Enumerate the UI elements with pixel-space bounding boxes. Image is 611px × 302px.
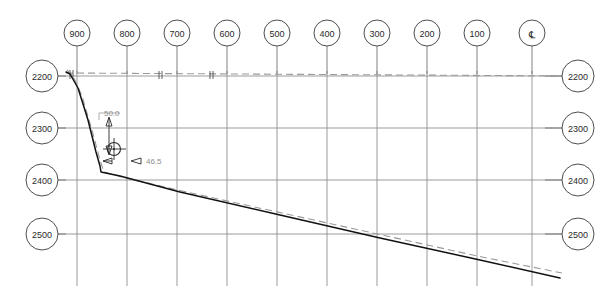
existing-grade-solid-profile	[66, 72, 560, 278]
elevation-bubble-label: 2500	[568, 230, 588, 240]
elevation-bubble-label: 2400	[568, 176, 588, 186]
elevation-bubble-left-2500[interactable]: 2500	[26, 218, 58, 250]
station-bubble-label: 800	[119, 29, 134, 39]
station-bubble-700[interactable]: 700	[164, 20, 190, 46]
grid-vertical-lines	[77, 71, 532, 286]
station-bubble-600[interactable]: 600	[214, 20, 240, 46]
station-bubble-200[interactable]: 200	[414, 20, 440, 46]
station-bubble-label: 100	[469, 29, 484, 39]
profile-svg: 50.0 46.5 900 800	[0, 0, 611, 302]
station-bubble-centerline[interactable]: ℄	[519, 20, 545, 46]
elevation-bubble-label: 2300	[568, 124, 588, 134]
elevation-bubble-label: 2200	[32, 72, 52, 82]
station-bubble-900[interactable]: 900	[64, 20, 90, 46]
elevation-bubble-label: 2400	[32, 176, 52, 186]
horizontal-dimension-label: 46.5	[146, 157, 162, 166]
target-center-dot-icon	[113, 148, 115, 150]
right-elevation-bubbles: 2200 2300 2400 2500	[562, 60, 594, 250]
dim-arrow-left-outer-46	[131, 158, 141, 164]
station-bubble-label: 300	[369, 29, 384, 39]
survey-point-marker	[103, 138, 126, 160]
station-bubble-label: 200	[419, 29, 434, 39]
station-bubbles: 900 800 700 600 500 400	[64, 20, 545, 46]
datum-hatch-marks	[70, 70, 213, 79]
elevation-bubble-right-2500[interactable]: 2500	[562, 218, 594, 250]
elevation-bubble-right-2400[interactable]: 2400	[562, 164, 594, 196]
elevation-bubble-right-2200[interactable]: 2200	[562, 60, 594, 92]
elevation-connector-stubs	[42, 76, 578, 234]
station-bubble-label: 900	[69, 29, 84, 39]
station-bubble-500[interactable]: 500	[264, 20, 290, 46]
profile-drawing-canvas: 50.0 46.5 900 800	[0, 0, 611, 302]
station-bubble-400[interactable]: 400	[314, 20, 340, 46]
elevation-bubble-left-2200[interactable]: 2200	[26, 60, 58, 92]
elevation-bubble-right-2300[interactable]: 2300	[562, 112, 594, 144]
station-leader-lines	[77, 46, 532, 74]
horizontal-dimension-group: 46.5	[103, 157, 162, 166]
station-bubble-label: 600	[219, 29, 234, 39]
elevation-bubble-left-2300[interactable]: 2300	[26, 112, 58, 144]
elevation-bubble-left-2400[interactable]: 2400	[26, 164, 58, 196]
vertical-dimension-group: 50.0	[99, 109, 120, 156]
station-bubble-800[interactable]: 800	[114, 20, 140, 46]
station-bubble-label: 700	[169, 29, 184, 39]
elevation-bubble-label: 2500	[32, 230, 52, 240]
station-bubble-label: 500	[269, 29, 284, 39]
station-bubble-label: 400	[319, 29, 334, 39]
elevation-bubble-label: 2200	[568, 72, 588, 82]
grid-horizontal-lines	[42, 76, 578, 234]
left-elevation-bubbles: 2200 2300 2400 2500	[26, 60, 58, 250]
centerline-symbol-icon: ℄	[528, 29, 536, 40]
design-grade-dashed-profile	[67, 70, 562, 273]
station-bubble-300[interactable]: 300	[364, 20, 390, 46]
station-bubble-100[interactable]: 100	[464, 20, 490, 46]
elevation-bubble-label: 2300	[32, 124, 52, 134]
upper-datum-dashed-line	[66, 73, 578, 76]
vertical-dimension-label: 50.0	[104, 109, 120, 118]
